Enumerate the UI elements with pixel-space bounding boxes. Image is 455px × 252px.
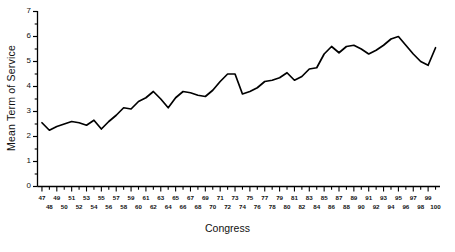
x-tick-label: 71 — [213, 194, 227, 201]
x-tick-label: 51 — [65, 194, 79, 201]
x-tick-label: 61 — [139, 194, 153, 201]
x-tick-label: 88 — [339, 203, 353, 210]
chart-figure: Mean Term of Service Congress 0123456747… — [0, 0, 455, 252]
x-tick-label: 83 — [302, 194, 316, 201]
x-tick-label: 54 — [87, 203, 101, 210]
x-tick-label: 73 — [228, 194, 242, 201]
x-tick-label: 80 — [280, 203, 294, 210]
x-tick-label: 82 — [295, 203, 309, 210]
x-tick-label: 77 — [258, 194, 272, 201]
x-tick-label: 86 — [325, 203, 339, 210]
x-tick-label: 100 — [429, 203, 443, 210]
x-tick-label: 93 — [377, 194, 391, 201]
x-tick-label: 47 — [35, 194, 49, 201]
x-tick-label: 87 — [332, 194, 346, 201]
x-tick-label: 56 — [102, 203, 116, 210]
x-tick-label: 89 — [347, 194, 361, 201]
x-tick-label: 96 — [399, 203, 413, 210]
x-tick-label: 48 — [42, 203, 56, 210]
x-tick-label: 68 — [191, 203, 205, 210]
x-tick-label: 66 — [176, 203, 190, 210]
chart-plot-area — [0, 0, 455, 252]
x-tick-label: 99 — [421, 194, 435, 201]
x-tick-label: 79 — [273, 194, 287, 201]
x-axis-title: Congress — [0, 222, 455, 234]
x-tick-label: 52 — [72, 203, 86, 210]
x-tick-label: 53 — [80, 194, 94, 201]
x-tick-label: 98 — [414, 203, 428, 210]
y-tick-label: 3 — [19, 107, 31, 115]
y-tick-label: 1 — [19, 157, 31, 165]
x-tick-label: 81 — [287, 194, 301, 201]
data-series-line — [42, 37, 436, 131]
x-tick-label: 84 — [310, 203, 324, 210]
x-tick-label: 62 — [146, 203, 160, 210]
x-tick-label: 57 — [109, 194, 123, 201]
x-tick-label: 60 — [131, 203, 145, 210]
y-tick-label: 4 — [19, 82, 31, 90]
x-tick-label: 63 — [154, 194, 168, 201]
y-tick-label: 2 — [19, 132, 31, 140]
x-tick-label: 97 — [406, 194, 420, 201]
y-axis-title-text: Mean Term of Service — [5, 45, 17, 151]
x-tick-label: 59 — [124, 194, 138, 201]
x-tick-label: 70 — [206, 203, 220, 210]
x-tick-label: 78 — [265, 203, 279, 210]
x-tick-label: 64 — [161, 203, 175, 210]
y-tick-label: 5 — [19, 57, 31, 65]
x-tick-label: 95 — [391, 194, 405, 201]
x-tick-label: 67 — [183, 194, 197, 201]
x-tick-label: 75 — [243, 194, 257, 201]
x-tick-label: 91 — [362, 194, 376, 201]
x-tick-label: 69 — [198, 194, 212, 201]
y-axis-title: Mean Term of Service — [2, 0, 20, 195]
y-tick-label: 0 — [19, 182, 31, 190]
x-tick-label: 50 — [57, 203, 71, 210]
x-tick-label: 92 — [369, 203, 383, 210]
x-tick-label: 55 — [94, 194, 108, 201]
x-tick-label: 74 — [235, 203, 249, 210]
x-tick-label: 85 — [317, 194, 331, 201]
x-tick-label: 90 — [354, 203, 368, 210]
x-tick-label: 65 — [169, 194, 183, 201]
x-tick-label: 49 — [50, 194, 64, 201]
y-tick-label: 6 — [19, 32, 31, 40]
y-tick-label: 7 — [19, 7, 31, 15]
x-tick-label: 58 — [117, 203, 131, 210]
x-tick-label: 72 — [221, 203, 235, 210]
x-tick-label: 76 — [250, 203, 264, 210]
x-tick-label: 94 — [384, 203, 398, 210]
